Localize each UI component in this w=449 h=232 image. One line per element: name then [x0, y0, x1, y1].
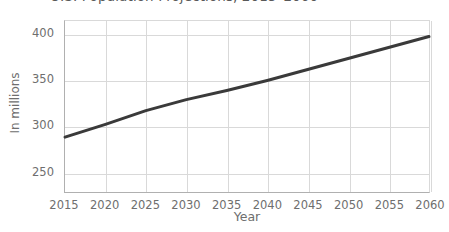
data-series-layer [65, 21, 429, 192]
chart-title: U.S. Population Projections, 2015–2060 [50, 0, 410, 8]
data-line [65, 37, 429, 138]
gridline-vertical [431, 21, 432, 192]
x-axis-title: Year [64, 209, 430, 224]
y-axis-tick-label: 400 [0, 26, 54, 40]
plot-area [64, 20, 430, 193]
y-axis-tick-label: 250 [0, 165, 54, 179]
y-axis-title: In millions [8, 48, 22, 158]
